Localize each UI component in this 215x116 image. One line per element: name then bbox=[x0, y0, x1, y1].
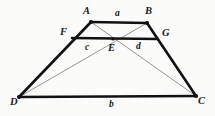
figure-background bbox=[0, 0, 215, 116]
vertex-label-c: C bbox=[198, 96, 205, 107]
geometry-figure: A B F G E D C a b c d bbox=[0, 0, 215, 116]
vertex-label-f: F bbox=[60, 27, 67, 38]
vertex-dot-a bbox=[89, 20, 93, 24]
vertex-label-g: G bbox=[162, 28, 170, 39]
segment-label-a: a bbox=[115, 9, 120, 19]
figure-canvas bbox=[0, 0, 215, 116]
vertex-label-e: E bbox=[108, 43, 115, 54]
segment-label-b: b bbox=[109, 100, 114, 110]
bottom-base-line bbox=[19, 96, 196, 97]
vertex-dot-b bbox=[145, 21, 149, 25]
segment-label-c: c bbox=[85, 43, 89, 53]
midline-fg-line bbox=[72, 38, 158, 39]
segment-label-d: d bbox=[136, 42, 141, 52]
top-base-line bbox=[91, 22, 147, 23]
vertex-label-b: B bbox=[145, 6, 152, 17]
vertex-label-d: D bbox=[10, 97, 18, 108]
vertex-dot-e bbox=[111, 37, 114, 40]
vertex-label-a: A bbox=[83, 6, 90, 17]
